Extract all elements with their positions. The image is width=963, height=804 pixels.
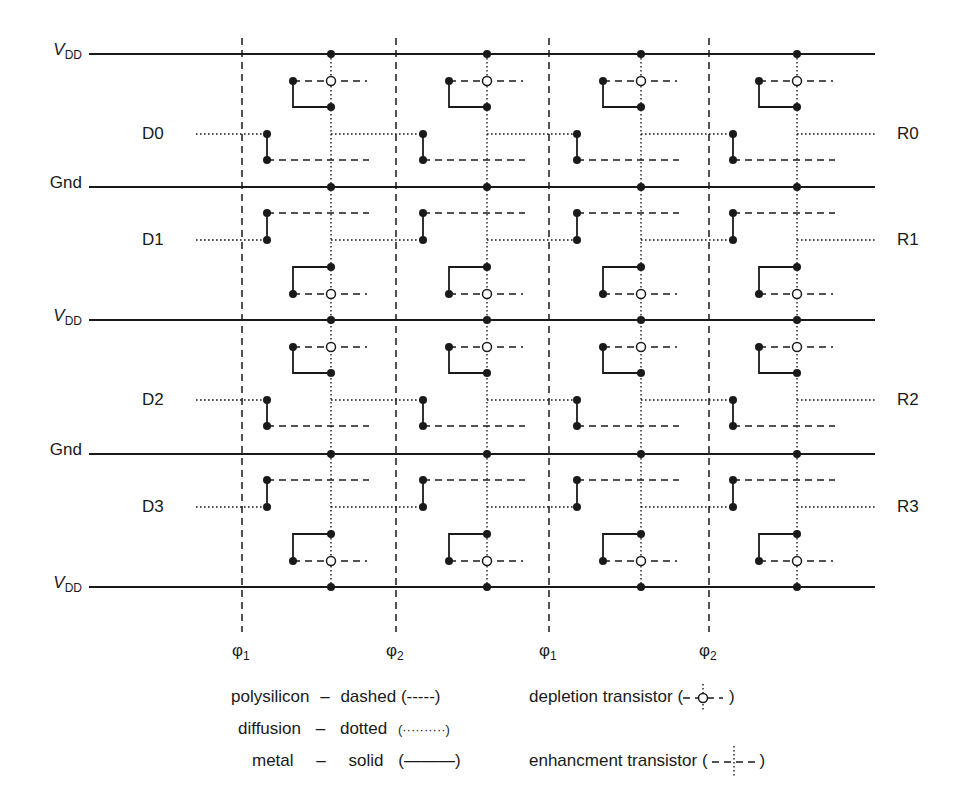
output-node-dot (637, 263, 645, 271)
legend-label: depletion transistor (529, 687, 673, 707)
rail-label-main: Gnd (50, 440, 82, 459)
legend-sample: (··········) (398, 720, 450, 740)
pullup-metal-bend (449, 534, 487, 561)
power-rails (89, 54, 875, 587)
pullup-metal-bend (603, 347, 641, 373)
output-node-dot (483, 530, 491, 538)
input-label-d2: D2 (142, 390, 164, 410)
output-node-dot (793, 103, 801, 111)
depletion-transistor-icon (637, 343, 646, 352)
depletion-transistor-icon (793, 77, 802, 86)
rail-label-main: V (53, 573, 64, 592)
legend-dash: – (316, 751, 325, 771)
depletion-transistor-icon (327, 343, 336, 352)
rail-contact-dot (793, 450, 801, 458)
legend-material: polysilicon (231, 687, 309, 707)
pullup-metal-bend (603, 534, 641, 561)
pullup-metal-bend (603, 81, 641, 107)
clock-label-phi1: φ1 (232, 641, 250, 666)
output-node-dot (483, 369, 491, 377)
legend-style: solid (349, 751, 384, 771)
legend-sample: (———) (398, 751, 460, 771)
rail-contact-dot (327, 583, 335, 591)
pullup-metal-bend (293, 534, 331, 561)
rail-label-gnd: Gnd (0, 440, 82, 460)
rail-contact-dot (793, 50, 801, 58)
rail-contact-dot (327, 316, 335, 324)
legend-material: diffusion (238, 719, 301, 739)
rail-contact-dot (327, 50, 335, 58)
rail-contact-dot (637, 583, 645, 591)
pullup-metal-bend (759, 534, 797, 561)
output-node-dot (483, 103, 491, 111)
rail-label-vdd: VDD (0, 306, 82, 331)
rail-contact-dot (327, 450, 335, 458)
rail-label-vdd: VDD (0, 573, 82, 598)
legend-polysilicon: polysilicon – dashed (-----) (231, 687, 441, 707)
depletion-transistor-icon (637, 557, 646, 566)
depletion-transistor-icon (327, 290, 336, 299)
depletion-transistor-icon (483, 77, 492, 86)
pullup-metal-bend (293, 267, 331, 294)
legend-dash: – (320, 687, 329, 707)
output-node-dot (637, 530, 645, 538)
input-label-d1: D1 (142, 230, 164, 250)
legend-sample: (-----) (401, 687, 441, 707)
rail-contact-dot (637, 50, 645, 58)
legend-enhancement: enhancment transistor () (529, 751, 765, 771)
rail-label-main: V (53, 40, 64, 59)
rail-contact-dot (793, 583, 801, 591)
pullup-metal-bend (293, 81, 331, 107)
pullup-metal-bend (449, 267, 487, 294)
depletion-transistor-icon (637, 290, 646, 299)
pullup-metal-bend (759, 267, 797, 294)
input-label-d0: D0 (142, 124, 164, 144)
legend-style: dashed (340, 687, 396, 707)
rail-label-sub: DD (65, 48, 82, 62)
rail-contact-dot (483, 450, 491, 458)
rail-contact-dot (793, 183, 801, 191)
output-node-dot (327, 263, 335, 271)
output-node-dot (327, 103, 335, 111)
rail-label-main: V (53, 306, 64, 325)
output-node-dot (793, 530, 801, 538)
legend-diffusion: diffusion – dotted (··········) (238, 719, 450, 740)
clock-label-phi2: φ2 (386, 641, 404, 666)
depletion-transistor-icon (483, 290, 492, 299)
rail-contact-dot (637, 316, 645, 324)
pullup-metal-bend (603, 267, 641, 294)
rail-contact-dot (483, 183, 491, 191)
output-node-dot (327, 369, 335, 377)
output-label-r1: R1 (897, 230, 919, 250)
rail-label-sub: DD (65, 314, 82, 328)
legend-depletion: depletion transistor () (529, 687, 735, 707)
legend-dash: – (316, 719, 325, 739)
clock-label-phi2: φ2 (699, 641, 717, 666)
rail-label-sub: DD (65, 581, 82, 595)
depletion-transistor-icon (483, 343, 492, 352)
rail-contact-dot (637, 450, 645, 458)
pullup-metal-bend (449, 347, 487, 373)
output-node-dot (637, 103, 645, 111)
rail-label-main: Gnd (50, 173, 82, 192)
rail-contact-dot (637, 183, 645, 191)
output-label-r3: R3 (897, 497, 919, 517)
legend-material: metal (252, 751, 294, 771)
rail-contact-dot (483, 316, 491, 324)
clock-lines (242, 38, 709, 632)
depletion-transistor-icon (327, 77, 336, 86)
rail-contact-dot (327, 183, 335, 191)
input-label-d3: D3 (142, 497, 164, 517)
depletion-transistor-icon (483, 557, 492, 566)
output-label-r2: R2 (897, 390, 919, 410)
pullup-metal-bend (759, 347, 797, 373)
depletion-transistor-icon (327, 557, 336, 566)
pullup-metal-bend (449, 81, 487, 107)
legend-label: enhancment transistor (529, 751, 697, 771)
rail-contact-dot (483, 583, 491, 591)
legend-style: dotted (340, 719, 387, 739)
output-node-dot (637, 369, 645, 377)
depletion-transistor-icon (793, 290, 802, 299)
rail-contact-dot (483, 50, 491, 58)
depletion-transistor-icon (793, 557, 802, 566)
